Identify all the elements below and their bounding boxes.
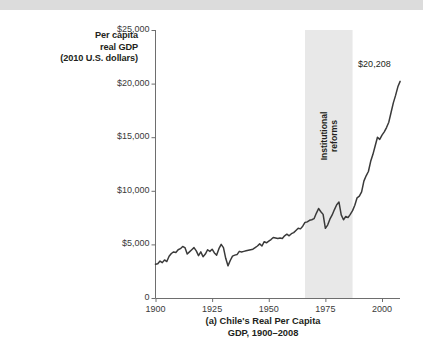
figure-page: Per capita real GDP (2010 U.S. dollars) … xyxy=(0,0,423,356)
y-axis-title-line3: (2010 U.S. dollars) xyxy=(8,53,138,65)
gdp-line-series xyxy=(156,81,401,265)
y-axis-title: Per capita real GDP (2010 U.S. dollars) xyxy=(8,30,138,65)
x-tick-label: 1975 xyxy=(305,304,345,314)
band-label-line2: reforms xyxy=(329,120,339,152)
chart-figure: Per capita real GDP (2010 U.S. dollars) … xyxy=(0,10,423,356)
caption-line2: GDP, 1900–2008 xyxy=(113,328,413,340)
y-tick-label: $5,000 xyxy=(96,238,150,248)
figure-caption: (a) Chile's Real Per Capita GDP, 1900–20… xyxy=(113,316,413,339)
y-tick-label: $25,000 xyxy=(96,24,150,34)
x-tick-label: 1950 xyxy=(249,304,289,314)
x-tick-label: 1900 xyxy=(136,304,176,314)
y-tick-label: $15,000 xyxy=(96,131,150,141)
page-top-band xyxy=(0,0,423,10)
band-label-line1: Institutional xyxy=(319,112,329,161)
endpoint-value-label: $20,208 xyxy=(358,59,391,69)
chart-axes xyxy=(156,30,401,299)
x-tick-label: 1925 xyxy=(192,304,232,314)
caption-line1: (a) Chile's Real Per Capita xyxy=(113,316,413,328)
y-tick-label: 0 xyxy=(96,292,150,302)
y-tick-label: $10,000 xyxy=(96,185,150,195)
y-tick-label: $20,000 xyxy=(96,78,150,88)
institutional-reforms-label: Institutional reforms xyxy=(319,96,339,176)
x-tick-label: 2000 xyxy=(362,304,402,314)
y-axis-ticks xyxy=(152,31,156,299)
y-axis-title-line2: real GDP xyxy=(8,42,138,54)
